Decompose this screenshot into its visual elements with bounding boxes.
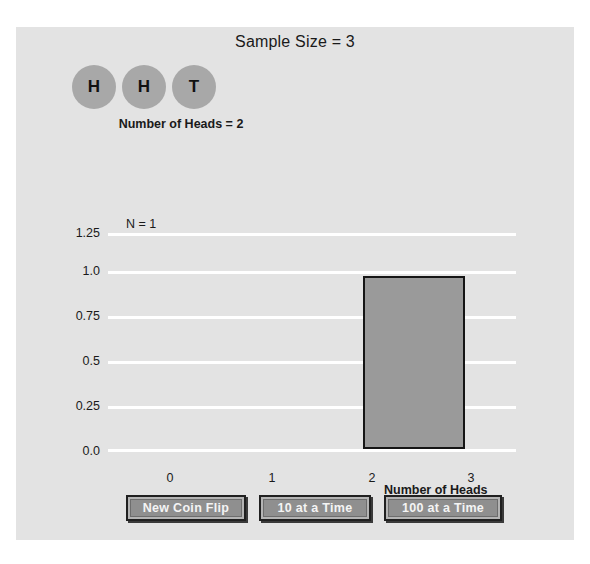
gridline-1-25	[108, 233, 516, 236]
y-axis-ticks: 1.25 1.0 0.75 0.5 0.25 0.0	[38, 233, 104, 465]
y-tick-1-25: 1.25	[40, 226, 100, 240]
x-tick-0: 0	[150, 471, 190, 485]
gridline-0-0	[108, 449, 516, 452]
y-tick-0-0: 0.0	[40, 444, 100, 458]
gridline-1-0	[108, 271, 516, 274]
new-coin-flip-button[interactable]: New Coin Flip	[126, 495, 246, 521]
heads-count-label: Number of Heads = 2	[16, 117, 346, 131]
coin-1: H	[122, 65, 166, 109]
y-tick-0-75: 0.75	[40, 309, 100, 323]
ten-at-a-time-button[interactable]: 10 at a Time	[259, 495, 371, 521]
new-coin-flip-button-label: New Coin Flip	[130, 499, 242, 517]
hundred-at-a-time-button[interactable]: 100 at a Time	[384, 495, 502, 521]
page-title: Sample Size = 3	[16, 33, 574, 51]
coin-display: H H T	[72, 65, 292, 111]
coin-2: T	[172, 65, 216, 109]
chart-annotation-n: N = 1	[126, 217, 156, 231]
coin-0: H	[72, 65, 116, 109]
y-tick-0-25: 0.25	[40, 399, 100, 413]
hundred-at-a-time-button-label: 100 at a Time	[388, 499, 498, 517]
histogram-chart: N = 1 1.25 1.0 0.75 0.5 0.25 0.0 0 1 2 3…	[16, 187, 574, 497]
y-tick-0-5: 0.5	[40, 354, 100, 368]
bar-heads-2	[363, 276, 465, 449]
ten-at-a-time-button-label: 10 at a Time	[263, 499, 367, 517]
coin-flip-applet: Sample Size = 3 H H T Number of Heads = …	[16, 27, 574, 540]
button-bar: New Coin Flip 10 at a Time 100 at a Time	[16, 495, 574, 540]
x-tick-1: 1	[252, 471, 292, 485]
y-tick-1-0: 1.0	[40, 264, 100, 278]
plot-area	[108, 233, 516, 465]
